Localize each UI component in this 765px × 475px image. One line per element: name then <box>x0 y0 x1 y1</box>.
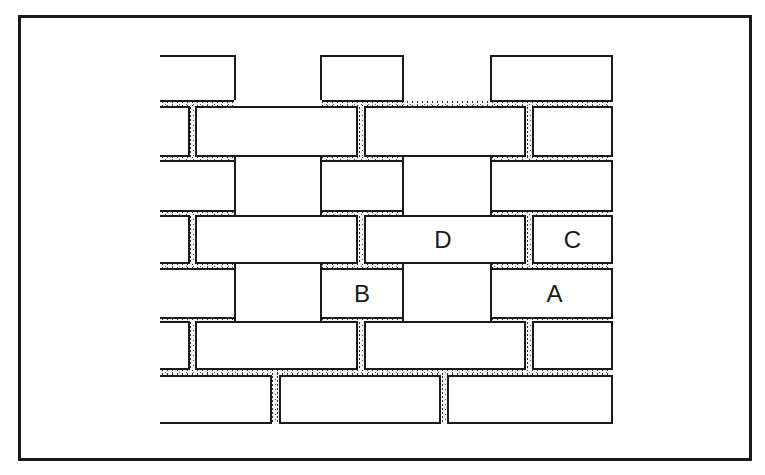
brick <box>195 106 358 157</box>
brick <box>195 215 358 264</box>
brick <box>447 375 613 424</box>
brick-wall: D C B A <box>0 0 765 475</box>
brick <box>160 55 236 102</box>
brick <box>490 160 613 212</box>
label-C: C <box>564 226 581 254</box>
brick <box>160 215 190 264</box>
brick <box>490 55 613 102</box>
brick <box>160 106 190 157</box>
brick <box>160 268 236 319</box>
brick <box>279 375 441 424</box>
label-A: A <box>546 280 562 308</box>
brick <box>160 321 190 370</box>
brick <box>364 321 526 370</box>
brick <box>532 321 613 370</box>
brick <box>320 160 404 212</box>
brick <box>364 106 526 157</box>
header-brick-opening <box>234 155 322 217</box>
brick-C: C <box>532 215 613 264</box>
label-B: B <box>354 280 370 308</box>
label-D: D <box>434 226 451 254</box>
header-brick-opening <box>234 262 322 323</box>
header-brick-opening <box>402 262 492 323</box>
brick <box>160 160 236 212</box>
brick-A: A <box>490 268 613 319</box>
brick <box>195 321 358 370</box>
brick-D: D <box>364 215 526 264</box>
brick <box>160 375 272 424</box>
header-brick-opening <box>402 155 492 217</box>
brick <box>320 55 404 102</box>
brick <box>532 106 613 157</box>
brick-B: B <box>320 268 404 319</box>
